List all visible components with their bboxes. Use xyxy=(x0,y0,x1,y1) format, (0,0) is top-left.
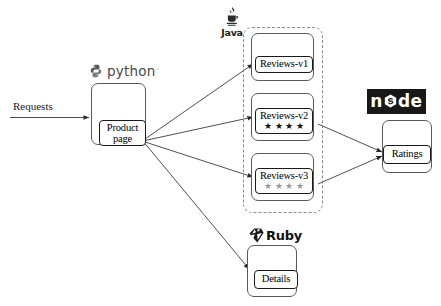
architecture-diagram: Requests python ˜ Product page Java Revi… xyxy=(0,0,441,306)
star-icon: ★ xyxy=(264,122,272,131)
reviews-v3-star-rating: ★★★★ xyxy=(264,182,304,191)
star-icon: ★ xyxy=(275,122,283,131)
star-icon: ★ xyxy=(285,122,293,131)
reviews-v1-node[interactable]: Reviews-v1 xyxy=(255,56,313,73)
java-logo-text: Java xyxy=(221,27,242,38)
python-logo: python ˜ xyxy=(89,63,158,79)
details-node-label: Details xyxy=(262,274,290,285)
ruby-logo: Ruby xyxy=(248,226,302,244)
java-icon xyxy=(222,6,242,28)
details-node[interactable]: Details xyxy=(254,270,298,289)
ruby-logo-text: Ruby xyxy=(266,228,302,243)
reviews-v3-node-label: Reviews-v3 xyxy=(260,171,308,182)
python-logo-text: python xyxy=(107,63,155,79)
requests-label: Requests xyxy=(13,100,53,112)
nodejs-logo-text: n de xyxy=(370,93,422,110)
reviews-v2-node[interactable]: Reviews-v2 ★★★★ xyxy=(255,108,313,134)
productpage-node-label-line1: Product xyxy=(107,122,138,133)
star-icon: ★ xyxy=(285,182,293,191)
edge-reviews-v2-to-ratings xyxy=(318,124,382,152)
edge-productpage-to-reviews-v3 xyxy=(145,142,253,177)
nodejs-logo-text-suffix: de xyxy=(398,93,423,110)
ratings-node[interactable]: Ratings xyxy=(383,145,431,164)
productpage-node[interactable]: Product page xyxy=(99,120,146,146)
reviews-v1-node-label: Reviews-v1 xyxy=(260,59,308,70)
edge-reviews-v3-to-ratings xyxy=(318,156,382,184)
star-icon: ★ xyxy=(264,182,272,191)
edge-layer xyxy=(0,0,441,306)
nodejs-hexagon-icon xyxy=(384,94,397,109)
edge-productpage-to-reviews-v2 xyxy=(145,117,253,141)
python-icon xyxy=(89,64,103,78)
ratings-node-label: Ratings xyxy=(392,149,423,160)
star-icon: ★ xyxy=(275,182,283,191)
reviews-v3-node[interactable]: Reviews-v3 ★★★★ xyxy=(255,168,313,194)
nodejs-logo-text-prefix: n xyxy=(370,93,383,110)
ruby-icon xyxy=(248,227,265,244)
python-trademark-mark: ˜ xyxy=(156,68,158,74)
edge-productpage-to-reviews-v1 xyxy=(145,64,253,139)
reviews-v2-star-rating: ★★★★ xyxy=(264,122,304,131)
reviews-v2-node-label: Reviews-v2 xyxy=(260,111,308,122)
star-icon: ★ xyxy=(296,122,304,131)
productpage-node-label-line2: page xyxy=(113,133,132,144)
nodejs-logo: n de xyxy=(367,89,426,114)
edge-productpage-to-details xyxy=(145,144,249,270)
star-icon: ★ xyxy=(296,182,304,191)
